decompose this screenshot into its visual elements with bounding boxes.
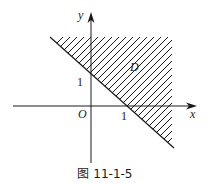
x-tick-label: 1 bbox=[121, 109, 127, 123]
y-axis-label: y bbox=[77, 8, 84, 22]
boundary-line bbox=[50, 37, 174, 148]
hatched-region-d bbox=[40, 37, 210, 150]
x-axis-label: x bbox=[189, 107, 196, 121]
figure-caption: 图 11-1-5 bbox=[0, 164, 210, 181]
region-label: D bbox=[129, 60, 139, 74]
coordinate-diagram: y x O 1 1 D bbox=[0, 0, 210, 184]
origin-label: O bbox=[78, 107, 87, 121]
y-tick-label: 1 bbox=[77, 75, 83, 89]
